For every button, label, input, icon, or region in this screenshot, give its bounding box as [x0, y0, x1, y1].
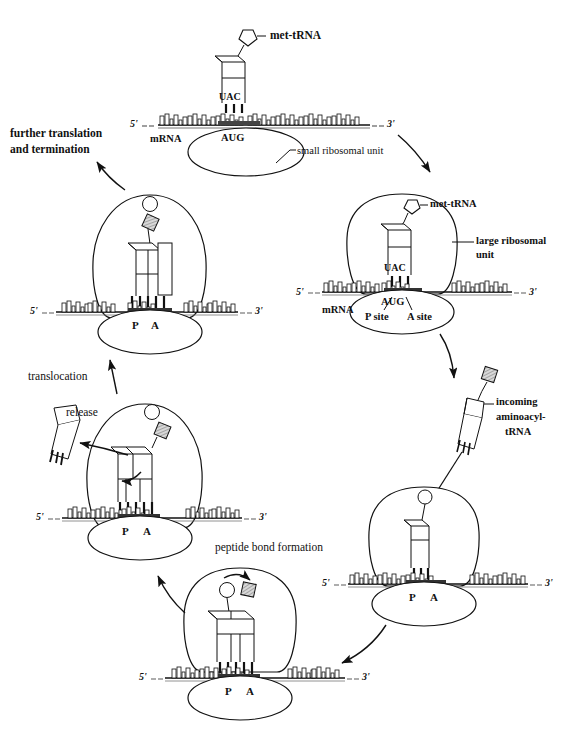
amino-acid-square-s4 [241, 582, 256, 597]
label-p-s3: P [409, 591, 416, 604]
amino-acid-pentagon-top [239, 30, 257, 46]
label-p-s4: P [225, 685, 232, 698]
label-further-translation-line2: and termination [10, 143, 90, 156]
label-incoming-line3: tRNA [505, 426, 531, 438]
amino-acid-circle-s4 [220, 583, 235, 598]
flow-arrow-5-to-6 [110, 360, 117, 394]
small-ribosomal-unit-s4 [188, 676, 292, 720]
label-small-ribosomal-unit: small ribosomal unit [297, 145, 383, 157]
flow-arrow-3-to-4 [342, 625, 386, 663]
label-a-s4: A [246, 685, 254, 698]
codon-shading-top [218, 121, 260, 125]
label-three-prime-s6: 3' [255, 305, 263, 317]
incoming-aminoacyl-trna-group [457, 366, 498, 455]
small-ribosomal-unit-s3 [372, 582, 476, 626]
amino-acid-circle-s5 [145, 405, 160, 420]
label-five-prime-s5: 5' [36, 511, 44, 523]
incoming-aa-link [478, 382, 487, 400]
label-five-prime-s3: 5' [322, 577, 330, 589]
label-p-s6: P [132, 319, 139, 332]
label-peptide-bond-formation: peptide bond formation [215, 541, 323, 554]
label-incoming-line2: aminoacyl- [496, 411, 546, 423]
label-large-ribosomal-unit-line2: unit [476, 249, 494, 261]
flow-arrow-to-termination [97, 162, 125, 190]
label-anticodon-uac-top: UAC [219, 91, 241, 103]
amino-acid-circle-s3 [418, 490, 432, 504]
label-codon-aug-right: AUG [381, 296, 404, 308]
incoming-amino-acid-square [481, 366, 497, 382]
small-ribosomal-unit-s6 [98, 310, 202, 354]
stage-6-further-translation-group [42, 195, 252, 354]
label-a-s3: A [430, 591, 438, 604]
flow-arrow-4-to-5 [158, 576, 185, 613]
label-three-prime-s5: 3' [259, 511, 267, 523]
label-three-prime-right: 3' [529, 286, 537, 298]
label-translocation: translocation [28, 370, 87, 383]
label-three-prime-top: 3' [387, 118, 395, 130]
anticodon-stubs-top [226, 104, 242, 113]
flow-arrow-1-to-2 [398, 135, 430, 172]
label-codon-aug-top: AUG [221, 132, 244, 144]
small-ribosomal-unit-top [188, 128, 304, 176]
label-three-prime-s4: 3' [362, 671, 370, 683]
label-five-prime-s4: 5' [139, 671, 147, 683]
label-five-prime-right: 5' [296, 286, 304, 298]
small-ribosomal-unit-s5 [88, 516, 192, 560]
stage-4-peptide-bond-group [151, 568, 359, 720]
label-five-prime-s6: 5' [30, 305, 38, 317]
label-five-prime-top: 5' [130, 118, 138, 130]
label-p-s5: P [122, 525, 129, 538]
label-incoming-line1: incoming [496, 396, 537, 408]
label-a-s5: A [143, 525, 151, 538]
label-anticodon-uac-right: UAC [384, 262, 406, 274]
label-large-ribosomal-unit-line1: large ribosomal [476, 235, 546, 247]
label-three-prime-s3: 3' [545, 577, 553, 589]
label-a-s6: A [151, 319, 159, 332]
label-met-trna-top: met-tRNA [270, 29, 321, 42]
amino-acid-circle-s6 [143, 197, 158, 212]
trna-extra-box-s6 [158, 243, 172, 295]
label-mrna-right: mRNA [322, 304, 354, 316]
translation-diagram-page: met-tRNA UAC AUG mRNA small ribosomal un… [0, 0, 565, 740]
stage-3-elongation-group [334, 487, 542, 626]
label-further-translation-line1: further translation [10, 127, 102, 140]
stage-5-translocation-group [48, 404, 256, 560]
flow-arrow-2-to-3 [440, 334, 454, 378]
label-a-site: A site [407, 311, 432, 323]
label-p-site: P site [365, 311, 389, 323]
label-release: release [66, 406, 98, 419]
label-mrna-top: mRNA [150, 133, 182, 145]
label-met-trna-right: met-tRNA [430, 198, 477, 210]
released-trna-stem [51, 420, 80, 459]
